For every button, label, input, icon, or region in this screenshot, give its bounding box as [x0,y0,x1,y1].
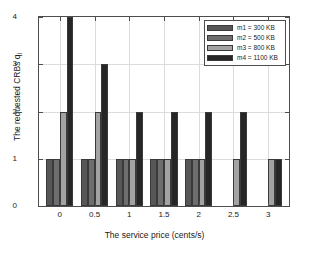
y-tick-mark [285,206,289,207]
legend-label: m2 = 500 KB [237,35,275,42]
legend-swatch [207,55,233,61]
x-tick-mark [129,202,130,206]
y-axis-label: The requested CRBs qi [12,7,22,187]
bar-group [81,17,108,206]
x-tick-mark [95,202,96,206]
y-tick-mark [285,159,289,160]
y-tick-label: 0 [0,202,17,210]
x-axis-label: The service price (cents/s) [0,230,309,240]
bar [150,159,157,206]
bar [157,159,164,206]
bar [185,159,192,206]
bar [81,159,88,206]
bar [88,159,95,206]
bar [164,159,171,206]
bar [60,112,67,207]
bar-group [46,17,73,206]
bar-chart-figure: 01234 00.511.522.53 The requested CRBs q… [0,0,309,256]
legend-label: m4 = 1100 KB [237,55,278,62]
bar [101,64,108,206]
legend: m1 = 300 KBm2 = 500 KBm3 = 800 KBm4 = 11… [204,20,286,66]
legend-swatch [207,45,233,51]
x-tick-mark [268,202,269,206]
y-tick-mark [39,64,43,65]
bar [116,159,123,206]
legend-swatch [207,35,233,41]
bar [123,159,130,206]
bar [53,159,60,206]
bar [129,159,136,206]
legend-row: m4 = 1100 KB [207,53,283,63]
bar [205,112,212,207]
x-tick-mark [164,202,165,206]
legend-row: m2 = 500 KB [207,33,283,43]
x-tick-mark [164,17,165,21]
y-tick-mark [39,112,43,113]
bar [136,112,143,207]
y-tick-mark [285,17,289,18]
bar [95,112,102,207]
bar [46,159,53,206]
y-tick-mark [39,206,43,207]
bar [192,159,199,206]
x-tick-mark [60,202,61,206]
y-tick-mark [39,17,43,18]
legend-row: m3 = 800 KB [207,43,283,53]
bar [275,159,282,206]
bar [171,112,178,207]
bar [199,159,206,206]
x-tick-mark [129,17,130,21]
bar [240,112,247,207]
x-tick-mark [233,202,234,206]
x-tick-mark [199,202,200,206]
legend-swatch [207,25,233,31]
y-tick-mark [285,112,289,113]
bar [233,159,240,206]
legend-label: m1 = 300 KB [237,25,275,32]
y-tick-mark [39,159,43,160]
y-axis-label-text: The requested CRBs q [12,55,22,141]
x-tick-mark [199,17,200,21]
bar-group [150,17,177,206]
legend-row: m1 = 300 KB [207,23,283,33]
x-tick-label: 3 [248,211,288,219]
x-tick-mark [95,17,96,21]
x-tick-mark [60,17,61,21]
legend-label: m3 = 800 KB [237,45,275,52]
bar-group [116,17,143,206]
bar [67,17,74,206]
bar [268,159,275,206]
